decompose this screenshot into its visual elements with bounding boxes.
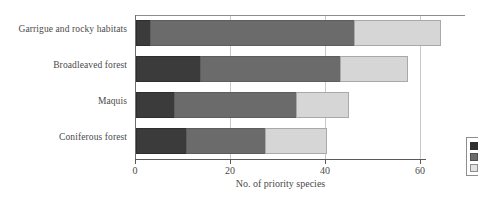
- xtick-label-60: 60: [415, 165, 425, 176]
- bar-segment-widespread-but-local[interactable]: [186, 128, 266, 154]
- category-axis-labels: Garrigue and rocky habitats Broadleaved …: [0, 15, 131, 160]
- plot-area: 0 20 40 60 Widespread and typical Widesp…: [135, 15, 465, 160]
- bar-segment-widespread-and-typical[interactable]: [136, 128, 187, 154]
- bar-segment-uncommon-or-highly-localized[interactable]: [265, 128, 327, 154]
- bar-segment-widespread-and-typical[interactable]: [136, 92, 175, 118]
- xtick-label-0: 0: [133, 165, 138, 176]
- bar-segment-widespread-and-typical[interactable]: [136, 20, 151, 46]
- category-label-coniferous-forest: Coniferous forest: [59, 132, 127, 143]
- category-label-maquis: Maquis: [98, 96, 127, 107]
- bar-segment-widespread-and-typical[interactable]: [136, 56, 201, 82]
- legend-swatch-icon-widespread-and-typical: [470, 142, 478, 150]
- legend-swatch-icon-widespread-but-local: [470, 153, 478, 161]
- xtick-label-40: 40: [320, 165, 330, 176]
- bar-segment-uncommon-or-highly-localized[interactable]: [340, 56, 408, 82]
- xtick-mark-60: [420, 160, 421, 164]
- plot-frame-top-border: [135, 15, 465, 16]
- legend-swatch-icon-uncommon-or-highly-localized: [470, 164, 478, 172]
- bar-segment-widespread-but-local[interactable]: [174, 92, 297, 118]
- category-label-garrigue-and-rocky-habitats: Garrigue and rocky habitats: [19, 24, 127, 35]
- xtick-mark-0: [135, 160, 136, 164]
- bar-segment-uncommon-or-highly-localized[interactable]: [354, 20, 441, 46]
- category-axis-line: [135, 159, 426, 160]
- legend-item-uncommon-or-highly-localized[interactable]: Uncommon or highly localized: [470, 162, 478, 173]
- bar-segment-widespread-but-local[interactable]: [150, 20, 355, 46]
- xtick-mark-40: [325, 160, 326, 164]
- bar-segment-widespread-but-local[interactable]: [200, 56, 341, 82]
- legend-item-widespread-and-typical[interactable]: Widespread and typical: [470, 140, 478, 151]
- legend-item-widespread-but-local[interactable]: Widespread but local: [470, 151, 478, 162]
- xtick-mark-20: [230, 160, 231, 164]
- stacked-bar-chart-figure: Garrigue and rocky habitats Broadleaved …: [0, 0, 478, 202]
- xtick-label-20: 20: [225, 165, 235, 176]
- category-label-broadleaved-forest: Broadleaved forest: [53, 60, 127, 71]
- chart-legend: Widespread and typical Widespread but lo…: [466, 137, 478, 176]
- bar-segment-uncommon-or-highly-localized[interactable]: [296, 92, 349, 118]
- x-axis-title: No. of priority species: [135, 178, 426, 189]
